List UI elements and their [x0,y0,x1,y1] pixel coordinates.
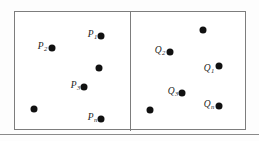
point-dot-q1 [216,63,223,70]
point-dot-q-unlabeled-a [200,27,207,34]
point-label-q3: Q3 [168,87,178,97]
point-dot-p2 [49,45,56,52]
point-label-q1: Q1 [204,64,214,74]
point-dot-p1 [98,33,105,40]
point-label-p1: P1 [88,30,97,40]
point-label-subscript-p1: 1 [94,33,97,40]
point-dot-q2 [167,49,174,56]
point-label-subscript-p3: 3 [77,84,80,91]
point-label-subscript-q2: 2 [162,49,165,56]
point-label-subscript-p2: 2 [44,45,47,52]
point-label-q2: Q2 [155,46,165,56]
point-label-subscript-q3: 3 [175,90,178,97]
point-label-p2: P2 [38,42,47,52]
point-dot-p-unlabeled-a [96,65,103,72]
point-dot-pn [98,116,105,123]
point-dot-qn [216,103,223,110]
baseline-rule [0,134,259,135]
cell-divider [130,11,131,131]
point-label-subscript-q1: 1 [211,67,214,74]
point-label-qn: Qn [204,100,214,110]
point-dot-p3 [81,84,88,91]
point-label-subscript-qn: n [211,103,214,110]
point-dot-q3 [179,90,186,97]
point-dot-p-unlabeled-b [31,106,38,113]
point-dot-q-unlabeled-b [147,107,154,114]
point-label-pn: Pn [88,113,97,123]
point-set-figure: P1P2P3Pn Q2Q1Q3Qn [0,0,259,141]
point-label-p3: P3 [71,81,80,91]
point-label-subscript-pn: n [94,116,97,123]
